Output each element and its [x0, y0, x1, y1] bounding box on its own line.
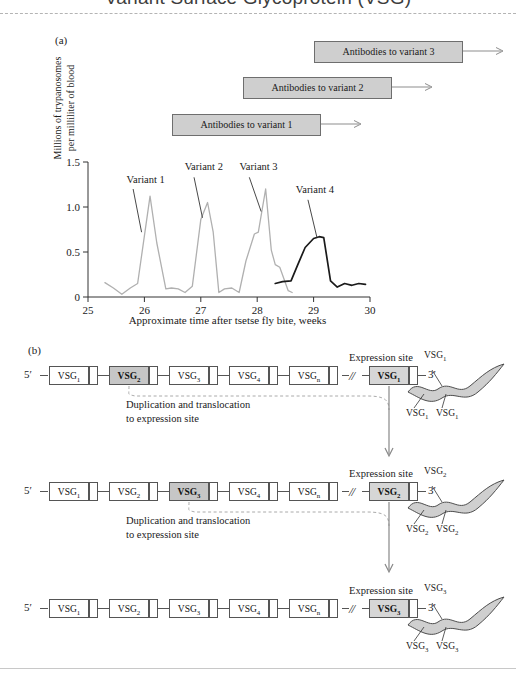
y-tick-label: 1.0 — [66, 201, 80, 213]
trypanosome-vsg-label-3: VSG2 — [436, 524, 458, 536]
gene-box-vsg-2: VSG2 — [109, 599, 149, 618]
strand-connector — [218, 375, 229, 376]
annotation-leader-1 — [133, 189, 141, 232]
gene-box-vsg-n: VSGn — [289, 366, 329, 385]
chart-ylabel-line2: per milliliter of blood — [65, 48, 79, 168]
trypanosome-vsg-label-1: VSG1 — [424, 350, 446, 362]
chart-annotation-1: Variant 1 — [127, 174, 165, 185]
trypanosome-leader-top — [432, 603, 442, 619]
chart-series-1 — [105, 189, 292, 294]
parasitemia-chart: 00.51.01.5252627282930 — [0, 152, 400, 332]
chart-series-2 — [275, 237, 365, 287]
gene-box-vsg-1: VSG1 — [49, 366, 89, 385]
strand-connector — [40, 375, 48, 376]
strand-connector — [362, 491, 369, 492]
five-prime-label: 5′ — [24, 601, 32, 613]
gene-flank-box — [149, 482, 158, 501]
trypanosome-vsg-label-3: VSG1 — [436, 408, 458, 420]
gene-flank-box — [209, 482, 218, 501]
trypanosome-vsg-label-2: VSG3 — [406, 641, 428, 653]
strand-connector — [342, 375, 349, 376]
gene-flank-box — [329, 599, 338, 618]
y-tick-label: 0.5 — [66, 246, 80, 258]
gene-flank-box — [209, 599, 218, 618]
process-arrow-head — [385, 448, 393, 456]
gene-box-vsg-2: VSG2 — [109, 482, 149, 501]
annotation-leader-4 — [308, 200, 317, 238]
expression-site-gene-box: VSG1 — [369, 366, 409, 385]
expression-site-gene-box: VSG2 — [369, 482, 409, 501]
gene-flank-box — [89, 599, 98, 618]
chromosome-break-symbol: // — [349, 366, 354, 385]
strand-connector — [158, 608, 169, 609]
strand-connector — [98, 608, 109, 609]
antibody-arrow-variant-1 — [321, 119, 365, 128]
strand-connector — [342, 491, 349, 492]
trypanosome-vsg-label-2: VSG1 — [406, 408, 428, 420]
panel-a-letter: (a) — [55, 34, 67, 46]
trypanosome-vsg-label-3: VSG3 — [436, 641, 458, 653]
annotation-leader-3 — [249, 177, 261, 211]
trypanosome-vsg-label-1: VSG2 — [424, 466, 446, 478]
antibody-box-variant-2: Antibodies to variant 2 — [243, 77, 392, 99]
top-divider — [0, 13, 516, 14]
strand-connector — [278, 375, 289, 376]
gene-flank-box — [329, 366, 338, 385]
strand-connector — [278, 608, 289, 609]
process-text-line-2: to expression site — [126, 528, 199, 542]
strand-connector — [40, 608, 48, 609]
gene-row-3: 5′VSG1VSG2VSG3VSG4VSGn//VSG33′Expression… — [0, 585, 516, 681]
chart-canvas: 00.51.01.5252627282930 — [0, 152, 400, 332]
gene-box-vsg-4: VSG4 — [229, 366, 269, 385]
gene-row-2: 5′VSG1VSG2VSG3VSG4VSGn//VSG23′Expression… — [0, 468, 516, 588]
gene-row-1: 5′VSG1VSG2VSG3VSG4VSGn//VSG13′Expression… — [0, 352, 516, 472]
trypanosome-vsg-label-2: VSG2 — [406, 524, 428, 536]
gene-box-vsg-4: VSG4 — [229, 599, 269, 618]
process-text-line-2: to expression site — [126, 412, 199, 426]
figure-title: Variant Surface Glycoprotein (VSG) — [0, 0, 516, 9]
gene-box-vsg-3: VSG3 — [169, 482, 209, 501]
gene-flank-box — [269, 599, 278, 618]
bottom-divider — [0, 668, 516, 669]
antibody-arrow-variant-3 — [463, 46, 507, 55]
chart-annotation-2: Variant 2 — [185, 161, 223, 172]
chart-xlabel: Approximate time after tsetse fly bite, … — [85, 314, 370, 326]
strand-connector — [218, 491, 229, 492]
chart-ylabel-line1: Millions of trypanosomes — [52, 48, 66, 168]
gene-flank-box — [149, 366, 158, 385]
chart-annotation-4: Variant 4 — [296, 184, 334, 195]
gene-box-vsg-3: VSG3 — [169, 366, 209, 385]
annotation-leader-2 — [194, 177, 202, 218]
gene-box-vsg-1: VSG1 — [49, 599, 89, 618]
five-prime-label: 5′ — [24, 368, 32, 380]
gene-box-vsg-n: VSGn — [289, 599, 329, 618]
strand-connector — [362, 375, 369, 376]
strand-connector — [362, 608, 369, 609]
chromosome-break-symbol: // — [349, 599, 354, 618]
strand-connector — [342, 608, 349, 609]
strand-connector — [40, 491, 48, 492]
process-arrow-head — [385, 564, 393, 572]
chromosome-break-symbol: // — [349, 482, 354, 501]
five-prime-label: 5′ — [24, 484, 32, 496]
strand-connector — [98, 375, 109, 376]
gene-flank-box — [329, 482, 338, 501]
strand-connector — [158, 375, 169, 376]
figure-root: Variant Surface Glycoprotein (VSG) (a) A… — [0, 0, 516, 681]
gene-box-vsg-4: VSG4 — [229, 482, 269, 501]
gene-flank-box — [269, 366, 278, 385]
strand-connector — [218, 608, 229, 609]
expression-site-gene-box: VSG3 — [369, 599, 409, 618]
gene-flank-box — [89, 366, 98, 385]
antibody-arrow-variant-2 — [392, 82, 436, 91]
trypanosome-vsg-label-1: VSG3 — [424, 583, 446, 595]
strand-connector — [278, 491, 289, 492]
y-tick-label: 0 — [75, 291, 81, 303]
gene-flank-box — [89, 482, 98, 501]
gene-flank-box — [269, 482, 278, 501]
strand-connector — [98, 491, 109, 492]
process-text-line-1: Duplication and translocation — [126, 514, 250, 528]
trypanosome-leader-top — [432, 370, 442, 386]
gene-flank-box — [209, 366, 218, 385]
antibody-box-variant-3: Antibodies to variant 3 — [314, 41, 463, 63]
